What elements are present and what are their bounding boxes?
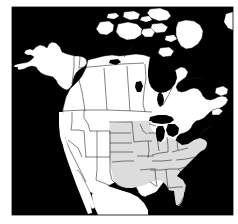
map-plot-area [12, 7, 233, 215]
north-america-map-canvas [0, 0, 238, 224]
map-figure [0, 0, 238, 224]
